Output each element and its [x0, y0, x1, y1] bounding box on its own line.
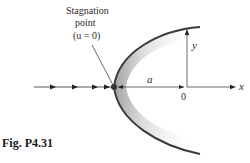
- origin-label: 0: [181, 91, 186, 102]
- dimension-arrow-right-icon: [179, 85, 184, 89]
- stagnation-label-line2: point: [75, 17, 96, 28]
- dimension-a-label: a: [147, 73, 153, 85]
- x-axis-arrow-icon: [230, 85, 236, 89]
- flow-arrow-icon: [72, 85, 78, 90]
- stagnation-label-line3: (u = 0): [73, 30, 100, 41]
- flow-arrow-icon: [104, 85, 110, 90]
- stagnation-point-dot: [111, 84, 117, 90]
- figure-caption: Fig. P4.31: [2, 136, 53, 151]
- flow-arrow-icon: [92, 85, 98, 90]
- x-axis-label: x: [239, 80, 244, 92]
- stagnation-label-line1: Stagnation: [66, 5, 109, 16]
- stagnation-leader-line: [92, 45, 113, 85]
- flow-arrow-icon: [50, 85, 56, 90]
- y-axis-label: y: [192, 39, 197, 51]
